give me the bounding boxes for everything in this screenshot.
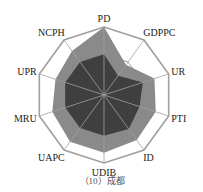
axis-label-uapc: UAPC — [38, 152, 65, 163]
axis-label-pti: PTI — [171, 113, 186, 124]
axis-label-mru: MRU — [14, 113, 38, 124]
chart-caption: （10）成都 — [80, 175, 125, 186]
axis-label-id: ID — [143, 152, 154, 163]
radar-chart: PDGDPPCURPTIIDUDIBUAPCMRUUPRNCPH （10）成都 — [0, 0, 203, 192]
axis-label-ncph: NCPH — [38, 27, 65, 38]
axis-label-ur: UR — [171, 66, 185, 77]
axis-label-pd: PD — [98, 13, 111, 24]
axis-label-gdppc: GDPPC — [143, 27, 176, 38]
axis-label-upr: UPR — [17, 66, 37, 77]
